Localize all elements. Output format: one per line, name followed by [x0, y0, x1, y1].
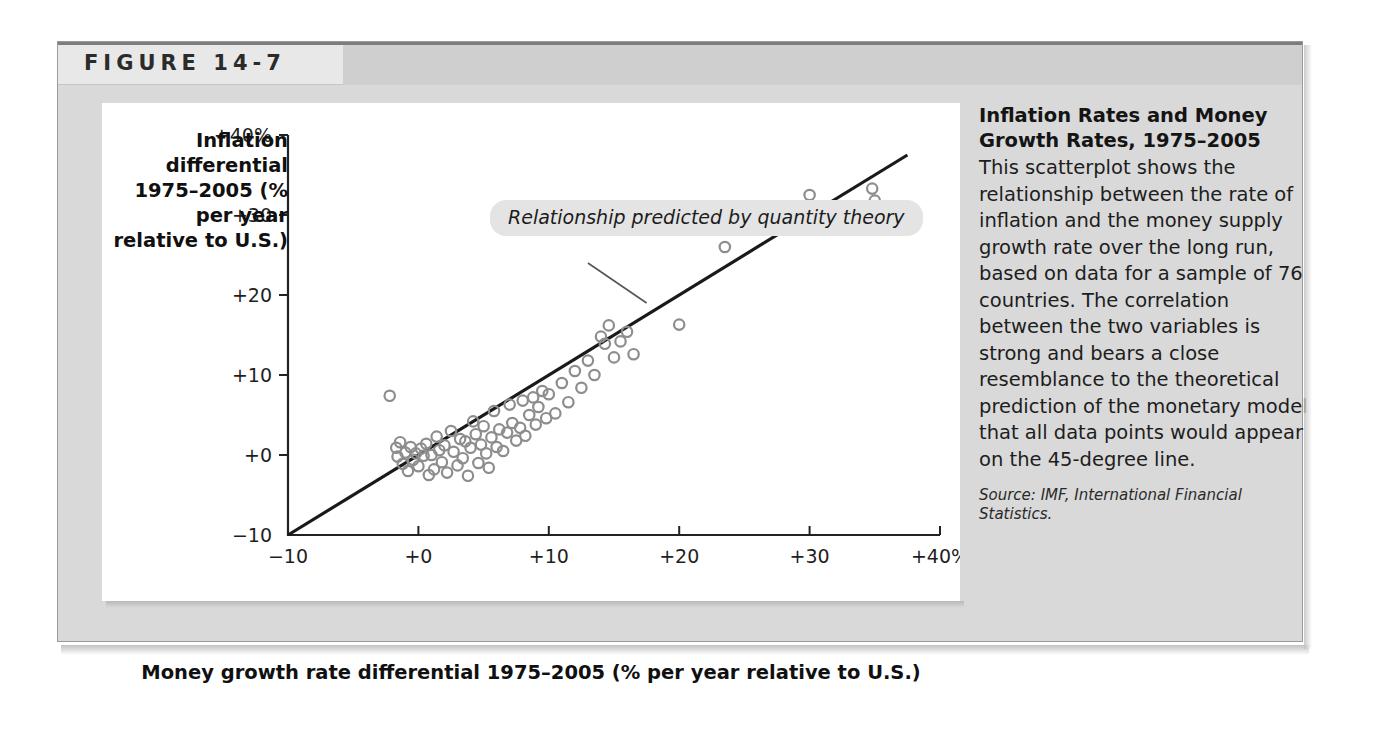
figure-drop-shadow-right — [1304, 45, 1312, 649]
caption-source: Source: IMF, International Financial Sta… — [979, 486, 1319, 524]
svg-text:+20: +20 — [659, 545, 699, 567]
svg-text:+40%: +40% — [911, 545, 960, 567]
caption-column: Inflation Rates and Money Growth Rates, … — [979, 104, 1319, 524]
figure-header-band: FIGURE 14-7 — [58, 42, 1302, 85]
svg-text:−10: −10 — [232, 524, 272, 546]
y-axis-title: Inflation differential 1975–2005 (% per … — [112, 128, 288, 253]
plot-panel-shadow — [106, 601, 964, 608]
annotation-callout: Relationship predicted by quantity theor… — [490, 200, 923, 236]
svg-text:+0: +0 — [404, 545, 432, 567]
figure-header-accent — [343, 42, 1302, 85]
svg-text:+0: +0 — [244, 444, 272, 466]
figure-drop-shadow — [61, 645, 1309, 655]
svg-text:−10: −10 — [268, 545, 308, 567]
annotation-leader-line — [588, 263, 647, 303]
caption-title: Inflation Rates and Money Growth Rates, … — [979, 104, 1319, 153]
figure-number-label: FIGURE 14-7 — [84, 51, 286, 75]
figure-container: FIGURE 14-7 −10+0+10+20+30+40%−10+0+10+2… — [57, 41, 1303, 642]
svg-text:+20: +20 — [232, 284, 272, 306]
svg-text:+10: +10 — [529, 545, 569, 567]
svg-text:+10: +10 — [232, 364, 272, 386]
caption-body: This scatterplot shows the relationship … — [979, 155, 1319, 473]
svg-text:+30: +30 — [790, 545, 830, 567]
figure-page: FIGURE 14-7 −10+0+10+20+30+40%−10+0+10+2… — [0, 0, 1374, 737]
figure-header-rule — [58, 42, 1302, 45]
x-axis-title: Money growth rate differential 1975–2005… — [102, 661, 960, 684]
